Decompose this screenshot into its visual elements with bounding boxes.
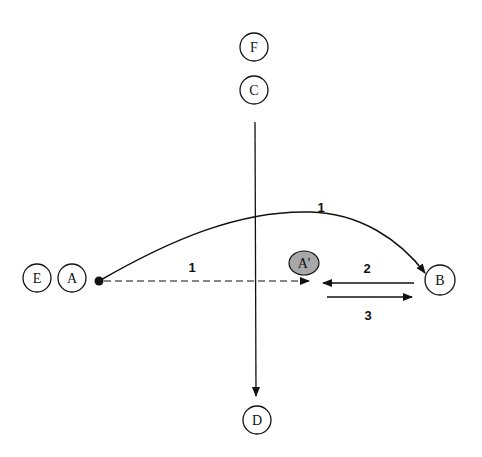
edge-curve-label: 1 [317, 200, 324, 215]
edge-2-label: 2 [363, 261, 370, 276]
node-d-label: D [252, 413, 262, 428]
edge-c-to-d [255, 122, 256, 396]
node-d: D [243, 406, 271, 434]
edge-dashed-label: 1 [188, 260, 195, 275]
node-f: F [240, 33, 268, 61]
diagram-canvas: F C D E A 1 1 A' 2 3 B [0, 0, 482, 457]
node-b: B [425, 265, 455, 295]
node-c: C [240, 76, 268, 104]
node-e: E [23, 264, 51, 292]
edge-3-label: 3 [364, 308, 371, 323]
node-b-label: B [435, 273, 444, 288]
node-a-label: A [67, 271, 78, 286]
node-a-prime: A' [289, 251, 319, 275]
node-f-label: F [250, 40, 258, 55]
node-a: A [58, 264, 86, 292]
node-a-prime-label: A' [298, 256, 311, 271]
node-e-label: E [33, 271, 42, 286]
edge-curve-a-to-b [99, 212, 425, 281]
node-c-label: C [249, 83, 258, 98]
